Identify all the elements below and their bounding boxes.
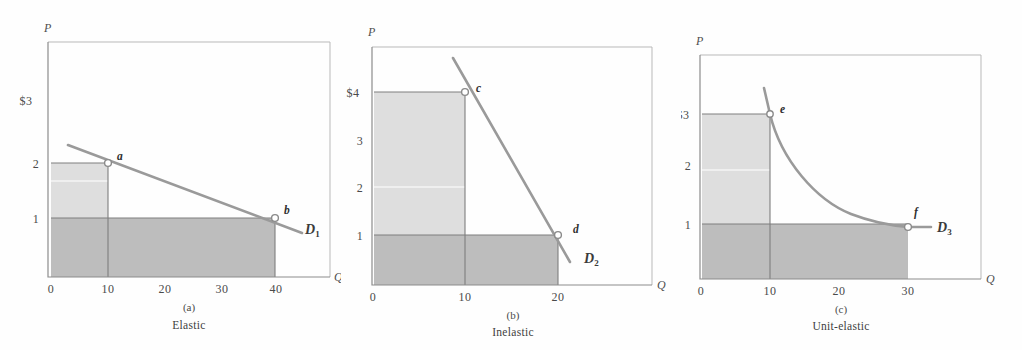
panel-c-xtick-3: 30 (902, 284, 915, 298)
panel-b-caption: Inelastic (492, 326, 534, 338)
panel-a-point-a-label: a (117, 150, 123, 162)
panel-c-light-area (702, 114, 770, 224)
panel-a-light-area (51, 163, 108, 218)
panel-a-curve-label: D1 (304, 222, 320, 239)
panel-a-ytick-2: 1 (33, 212, 40, 226)
panel-unit-elastic: P Q $3 2 1 0 10 20 30 e f D3 (c) Unit-el… (681, 0, 1022, 350)
panel-a-caption: Elastic (172, 319, 205, 331)
panel-a-point-b-marker (272, 215, 279, 222)
panel-b-ytick-2: 2 (357, 181, 364, 195)
panel-a-point-a-marker (105, 160, 112, 167)
panel-c-xtick-2: 20 (833, 284, 846, 298)
panel-inelastic: P Q $4 3 2 1 0 10 20 c d D2 (b) Inelasti… (341, 0, 682, 350)
panel-b-point-c-marker (462, 89, 469, 96)
panel-a-ytick-0: $3 (20, 94, 33, 108)
panel-a-xtick-1: 10 (102, 282, 115, 296)
panel-a-point-b-label: b (284, 204, 290, 216)
panel-a-xtick-3: 30 (216, 282, 229, 296)
panel-c-dark-area (702, 224, 908, 279)
panel-b-xtick-2: 20 (552, 290, 565, 304)
panel-c-ytick-2: 1 (685, 218, 692, 232)
panel-c-xtick-0: 0 (698, 284, 705, 298)
panel-a-x-axis-name: Q (334, 270, 341, 284)
panel-a-id: (a) (183, 301, 196, 314)
panel-c-curve-label: D3 (936, 220, 952, 237)
panel-b-curve-label: D2 (583, 251, 599, 268)
panel-a-xtick-4: 40 (270, 282, 283, 296)
panel-a-ytick-1: 2 (33, 157, 40, 171)
panel-b-id: (b) (507, 309, 520, 322)
panel-b-ytick-0: $4 (347, 86, 360, 100)
panel-a-dark-area (51, 218, 275, 277)
panel-c-point-f-marker (905, 224, 912, 231)
panel-a-xtick-0: 0 (48, 282, 55, 296)
panel-c-id: (c) (835, 303, 848, 316)
panel-c-y-axis-name: P (695, 34, 704, 48)
panel-c-point-e-label: e (780, 103, 785, 115)
panel-c-demand-curve (764, 88, 931, 227)
panel-b-xtick-1: 10 (459, 290, 472, 304)
panel-b-ytick-1: 3 (357, 134, 364, 148)
panel-c-xtick-1: 10 (764, 284, 777, 298)
elasticity-figure: P Q $3 2 1 0 10 20 30 40 a b D1 (a) Elas… (0, 0, 1022, 350)
panel-b-dark-area (374, 235, 558, 285)
panel-b-ytick-3: 1 (357, 229, 364, 243)
panel-elastic: P Q $3 2 1 0 10 20 30 40 a b D1 (a) Elas… (0, 0, 341, 350)
panel-c-point-e-marker (767, 111, 773, 117)
panel-c-point-f-label: f (914, 206, 919, 219)
panel-a-xtick-2: 20 (159, 282, 172, 296)
panel-b-point-d-marker (555, 232, 562, 239)
panel-c-caption: Unit-elastic (812, 320, 869, 332)
panel-b-x-axis-name: Q (657, 278, 666, 292)
panel-c-ytick-1: 2 (685, 159, 692, 173)
panel-c-x-axis-name: Q (986, 272, 995, 286)
panel-b-point-d-label: d (573, 223, 579, 235)
panel-b-demand-curve (453, 58, 570, 262)
panel-b-light-area (374, 92, 465, 235)
panel-b-xtick-0: 0 (370, 290, 377, 304)
panel-b-y-axis-name: P (367, 25, 376, 39)
panel-b-point-c-label: c (476, 82, 481, 94)
panel-a-y-axis-name: P (43, 21, 52, 35)
panel-c-ytick-0: $3 (681, 108, 690, 122)
